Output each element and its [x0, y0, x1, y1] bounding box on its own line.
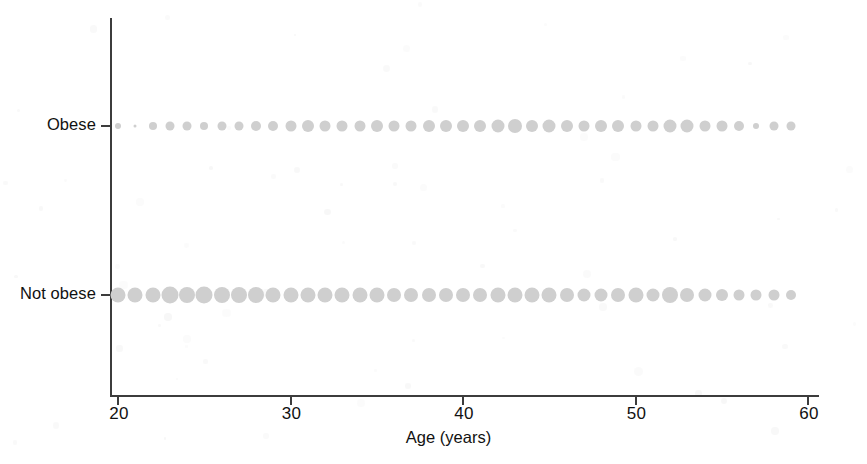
x-axis-title: Age (years)	[0, 428, 867, 447]
data-point	[179, 287, 195, 303]
data-point	[217, 122, 226, 131]
plot-area	[0, 0, 867, 464]
data-point	[526, 120, 538, 132]
x-tick-label-50: 50	[607, 404, 667, 424]
data-point	[406, 121, 417, 132]
data-point	[630, 121, 641, 132]
data-point	[111, 288, 126, 303]
data-point	[248, 287, 264, 303]
data-point	[664, 120, 677, 133]
data-point	[145, 288, 160, 303]
data-point	[320, 121, 331, 132]
data-point	[371, 120, 383, 132]
data-point	[578, 121, 589, 132]
data-point	[560, 288, 574, 302]
data-point	[318, 288, 333, 303]
data-point	[786, 122, 795, 131]
data-point	[716, 289, 728, 301]
data-point	[474, 120, 486, 132]
data-point	[716, 121, 727, 132]
data-point	[508, 119, 522, 133]
x-tick-label-40: 40	[434, 404, 494, 424]
data-point	[404, 288, 418, 302]
data-point	[491, 120, 504, 133]
data-point	[751, 290, 762, 301]
x-tick-label-60: 60	[779, 404, 839, 424]
data-point	[646, 289, 659, 302]
data-point	[285, 121, 296, 132]
data-point	[389, 121, 400, 132]
data-point	[595, 289, 608, 302]
data-point	[456, 288, 470, 302]
data-point	[681, 120, 694, 133]
data-point	[680, 288, 694, 302]
dot-plot-figure: 2030405060 ObeseNot obese Age (years)	[0, 0, 867, 464]
y-tick-label-not-obese: Not obese	[0, 284, 96, 303]
data-point	[335, 288, 350, 303]
data-point	[300, 288, 315, 303]
data-point	[251, 121, 261, 131]
data-point	[266, 288, 281, 303]
data-point	[768, 290, 779, 301]
data-point	[543, 120, 556, 133]
data-point	[302, 120, 314, 132]
data-point	[134, 125, 137, 128]
data-point	[561, 120, 573, 132]
data-point	[387, 288, 401, 302]
data-point	[542, 288, 557, 303]
data-point	[128, 288, 143, 303]
data-point	[352, 288, 367, 303]
data-point	[769, 122, 778, 131]
data-point	[647, 121, 658, 132]
data-point	[577, 289, 590, 302]
data-point	[214, 287, 230, 303]
data-point	[507, 288, 522, 303]
data-point	[490, 288, 505, 303]
data-point	[753, 123, 759, 129]
data-point	[525, 288, 540, 303]
data-point	[231, 287, 247, 303]
x-axis-title-label: Age (years)	[406, 428, 491, 447]
data-point	[734, 290, 745, 301]
y-tick-not-obese	[101, 294, 110, 296]
data-point	[473, 288, 487, 302]
data-point	[422, 288, 436, 302]
data-point	[337, 121, 348, 132]
data-point	[734, 121, 744, 131]
data-point	[423, 120, 435, 132]
data-point	[234, 122, 243, 131]
data-point	[628, 288, 643, 303]
data-point	[115, 123, 121, 129]
data-point	[457, 120, 469, 132]
data-point	[612, 120, 624, 132]
data-point	[268, 121, 278, 131]
data-point	[698, 289, 711, 302]
data-point	[165, 122, 174, 131]
data-point	[611, 288, 625, 302]
data-point	[595, 120, 607, 132]
data-point	[200, 122, 208, 130]
data-point	[183, 122, 192, 131]
data-point	[283, 288, 298, 303]
data-point	[786, 290, 796, 300]
data-point	[354, 121, 365, 132]
y-tick-obese	[101, 125, 110, 127]
y-tick-label-obese: Obese	[0, 115, 96, 134]
data-point	[196, 287, 213, 304]
data-point	[440, 120, 452, 132]
data-point	[662, 287, 678, 303]
data-point	[699, 121, 710, 132]
x-tick-label-30: 30	[262, 404, 322, 424]
data-point	[161, 287, 178, 304]
data-point	[439, 288, 453, 302]
data-point	[149, 122, 157, 130]
data-point	[369, 288, 384, 303]
x-tick-label-20: 20	[89, 404, 149, 424]
